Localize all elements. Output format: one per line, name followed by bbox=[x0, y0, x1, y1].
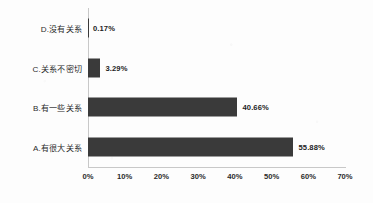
plot-area: D.没有关系 0.17% C.关系不密切 3.29% B.有一些关系 40.66… bbox=[88, 8, 345, 167]
xtick-label-40: 40% bbox=[227, 172, 242, 181]
bar-value-c: 3.29% bbox=[106, 63, 128, 72]
bar-row: D.没有关系 0.17% bbox=[88, 8, 345, 48]
xtick-label-10: 10% bbox=[117, 172, 132, 181]
bar-b bbox=[88, 98, 237, 117]
bar-row: A.有很大关系 55.88% bbox=[88, 127, 345, 167]
xtick-label-70: 70% bbox=[337, 172, 352, 181]
bar-a bbox=[88, 138, 293, 157]
bar-value-b: 40.66% bbox=[243, 103, 269, 112]
xtick-label-50: 50% bbox=[264, 172, 279, 181]
bar-row: C.关系不密切 3.29% bbox=[88, 48, 345, 88]
category-label-a: A.有很大关系 bbox=[33, 142, 82, 153]
xtick-label-20: 20% bbox=[154, 172, 169, 181]
bar-chart: D.没有关系 0.17% C.关系不密切 3.29% B.有一些关系 40.66… bbox=[0, 0, 373, 203]
bar-value-d: 0.17% bbox=[93, 23, 115, 32]
bar-d bbox=[88, 18, 89, 37]
xtick-label-60: 60% bbox=[301, 172, 316, 181]
category-label-b: B.有一些关系 bbox=[33, 102, 82, 113]
category-label-c: C.关系不密切 bbox=[33, 62, 83, 73]
bar-c bbox=[88, 58, 100, 77]
xtick-label-0: 0% bbox=[83, 172, 94, 181]
bar-value-a: 55.88% bbox=[299, 143, 325, 152]
category-label-d: D.没有关系 bbox=[41, 22, 82, 33]
bar-row: B.有一些关系 40.66% bbox=[88, 88, 345, 128]
x-axis-line bbox=[88, 167, 346, 168]
xtick-label-30: 30% bbox=[190, 172, 205, 181]
